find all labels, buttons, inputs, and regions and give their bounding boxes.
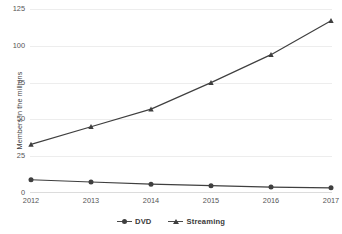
- y-axis-tick-label: 125: [13, 5, 25, 12]
- circle-marker-icon: [89, 179, 94, 184]
- circle-marker-icon: [149, 182, 154, 187]
- triangle-marker-icon: [328, 18, 333, 23]
- legend-item-dvd[interactable]: DVD: [117, 217, 151, 226]
- y-axis-title: Members in the millions: [15, 36, 24, 186]
- series-line: [31, 21, 331, 145]
- y-axis-tick-label: 75: [17, 79, 25, 86]
- circle-marker-icon: [117, 218, 132, 226]
- x-axis-tick-label: 2012: [23, 196, 39, 205]
- x-axis-tick-label: 2014: [143, 196, 159, 205]
- x-axis-tick-label: 2013: [83, 196, 99, 205]
- circle-marker-icon: [269, 185, 274, 190]
- circle-marker-icon: [29, 177, 34, 182]
- y-axis-tick-label: 50: [17, 116, 25, 123]
- y-axis-tick-label: 100: [13, 42, 25, 49]
- line-chart: Members in the millions 0255075100125 20…: [0, 0, 342, 234]
- series-container: [30, 9, 332, 193]
- legend-item-streaming[interactable]: Streaming: [168, 217, 225, 226]
- x-axis-ticks: 201220132014201520162017: [30, 196, 332, 210]
- circle-marker-icon: [209, 183, 214, 188]
- series-line: [31, 180, 331, 188]
- x-axis-tick-label: 2015: [203, 196, 219, 205]
- triangle-marker-icon: [168, 218, 183, 226]
- x-axis-tick-label: 2016: [263, 196, 279, 205]
- plot-area: 0255075100125: [30, 9, 332, 193]
- triangle-marker-icon: [208, 80, 213, 85]
- y-axis-tick-label: 25: [17, 152, 25, 159]
- series-dvd: [29, 177, 334, 190]
- legend-label: DVD: [135, 217, 151, 226]
- legend-label: Streaming: [186, 217, 225, 226]
- x-axis-tick-label: 2017: [323, 196, 339, 205]
- triangle-marker-icon: [268, 52, 273, 57]
- circle-marker-icon: [329, 185, 334, 190]
- series-streaming: [28, 18, 333, 147]
- chart-legend: DVDStreaming: [0, 217, 342, 226]
